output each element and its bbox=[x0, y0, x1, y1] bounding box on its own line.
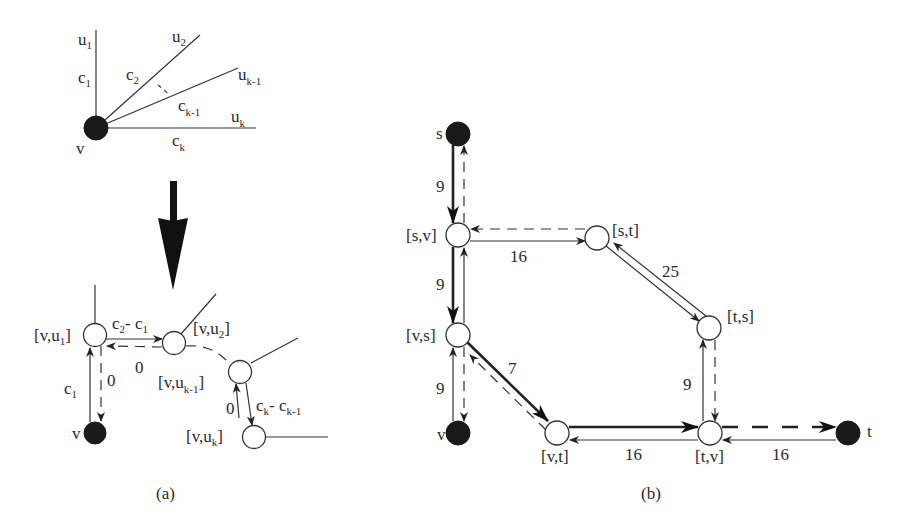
label-u2: u2 bbox=[172, 27, 186, 48]
node-vuk1 bbox=[229, 361, 252, 384]
label-vu1: [v,u1] bbox=[34, 326, 71, 347]
edge-ts-to-st bbox=[614, 243, 706, 316]
weight-v-to-vu1: c1 bbox=[64, 379, 77, 400]
ellipsis-path bbox=[186, 346, 226, 360]
edge-vs-to-vt bbox=[467, 342, 548, 421]
node-v bbox=[446, 421, 470, 445]
node-tv bbox=[698, 421, 722, 445]
panel-a-bottom-gadget: [v,u1] [v,u2] [v,uk-1] [v,uk] v c1 0 c2-… bbox=[34, 285, 328, 449]
figure-canvas: u1 u2 uk-1 uk c1 c2 ck-1 ck v bbox=[0, 0, 910, 529]
label-ck: ck bbox=[172, 131, 186, 153]
node-vt bbox=[545, 421, 569, 445]
node-vu1 bbox=[84, 324, 107, 347]
weight-vu1-to-v: 0 bbox=[107, 371, 116, 390]
label-st: [s,t] bbox=[612, 221, 639, 240]
weight-st-ts: 25 bbox=[662, 262, 679, 281]
node-s bbox=[446, 122, 470, 146]
caption-a: (a) bbox=[156, 484, 175, 503]
node-vuk bbox=[243, 426, 266, 449]
node-st bbox=[585, 226, 609, 250]
weight-s-sv: 9 bbox=[436, 177, 445, 196]
label-vuk1: [v,uk-1] bbox=[158, 373, 204, 395]
label-c2: c2 bbox=[126, 65, 139, 86]
label-vu2: [v,u2] bbox=[193, 319, 230, 340]
edge-vu2-to-vu1 bbox=[107, 346, 162, 347]
weight-t-tv: 16 bbox=[772, 445, 789, 464]
label-v-bottom: v bbox=[72, 424, 81, 443]
node-vu2 bbox=[163, 332, 186, 355]
label-s: s bbox=[436, 124, 443, 143]
panel-a-top-star: u1 u2 uk-1 uk c1 c2 ck-1 ck v bbox=[76, 27, 261, 158]
node-v-top bbox=[84, 116, 108, 140]
label-c1: c1 bbox=[78, 68, 91, 89]
edge-v-uk1 bbox=[96, 68, 238, 128]
node-vs bbox=[446, 323, 470, 347]
weight-vuk1-to-vuk: ck- ck-1 bbox=[256, 396, 301, 417]
weight-v-vs: 9 bbox=[436, 379, 445, 398]
weight-vu2-to-vu1: 0 bbox=[135, 358, 144, 377]
node-sv bbox=[446, 223, 470, 247]
panel-b-graph: s [s,v] [s,t] [t,s] [v,s] v [v,t] [t,v] … bbox=[406, 122, 872, 466]
label-uk1: uk-1 bbox=[238, 65, 261, 87]
edge-vuk1-to-vuk bbox=[246, 383, 252, 425]
stub-vuk1 bbox=[251, 338, 298, 363]
label-uk: uk bbox=[231, 107, 246, 129]
label-u1: u1 bbox=[78, 30, 92, 51]
weight-vs-vt: 7 bbox=[508, 359, 517, 378]
weight-sv-vs: 9 bbox=[436, 275, 445, 294]
weight-sv-st: 16 bbox=[510, 247, 527, 266]
label-ck1: ck-1 bbox=[178, 96, 200, 118]
edge-vuk-to-vuk1 bbox=[236, 384, 239, 418]
node-ts bbox=[697, 316, 721, 340]
caption-b: (b) bbox=[641, 484, 661, 503]
label-v-top: v bbox=[76, 139, 85, 158]
edge-st-to-ts bbox=[606, 246, 699, 321]
down-arrow-icon bbox=[158, 181, 188, 290]
node-t bbox=[836, 421, 860, 445]
label-ts: [t,s] bbox=[727, 307, 754, 326]
label-vs: [v,s] bbox=[406, 326, 436, 345]
label-vt: [v,t] bbox=[541, 447, 569, 466]
weight-tv-ts: 9 bbox=[683, 375, 692, 394]
label-v: v bbox=[437, 425, 446, 444]
label-sv: [s,v] bbox=[406, 226, 437, 245]
weight-tv-vt: 16 bbox=[625, 445, 642, 464]
label-tv: [t,v] bbox=[695, 447, 724, 466]
label-vuk: [v,uk] bbox=[186, 427, 223, 448]
weight-vu1-to-vu2: c2- c1 bbox=[112, 314, 148, 335]
node-v-bottom bbox=[84, 422, 106, 444]
weight-vuk-to-vuk1: 0 bbox=[226, 399, 235, 418]
label-t: t bbox=[867, 422, 872, 441]
ellipsis-dashes bbox=[158, 85, 170, 95]
